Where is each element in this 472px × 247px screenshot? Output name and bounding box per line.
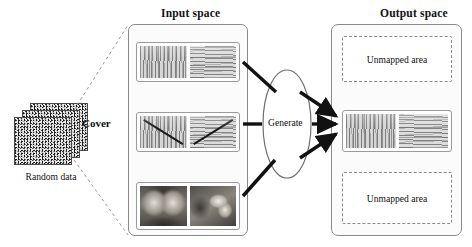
- unmapped-area-label: Unmapped area: [367, 54, 427, 65]
- noise-texture-icon: [14, 117, 72, 165]
- vertical-stripe-texture-icon: [140, 46, 187, 78]
- output-block-unmapped-bottom: Unmapped area: [342, 172, 452, 224]
- output-block-normal: [342, 110, 452, 152]
- random-data-label: Random data: [11, 172, 91, 182]
- cover-label: Cover: [82, 118, 111, 129]
- vertical-stripe-texture-icon: [346, 114, 396, 148]
- input-group-different-domain: [136, 182, 240, 230]
- horizontal-stripe-texture-icon: [190, 116, 237, 148]
- unmapped-area-label: Unmapped area: [367, 193, 427, 204]
- photo-face-texture-icon: [140, 186, 187, 226]
- generate-label: Generate: [268, 118, 303, 128]
- diagonal-line-up-icon: [190, 116, 237, 148]
- horizontal-stripe-texture-icon: [190, 46, 237, 78]
- photo-object-texture-icon: [190, 186, 237, 226]
- input-group-anomaly: [136, 112, 240, 152]
- input-group-normal: [136, 42, 240, 82]
- output-block-unmapped-top: Unmapped area: [342, 36, 452, 82]
- vertical-stripe-texture-icon: [140, 116, 187, 148]
- output-space-header: Output space: [380, 8, 448, 20]
- output-block-label-normal: Normal data: [331, 98, 472, 107]
- diagram-canvas: Random data Cover Input space Normal dat…: [0, 0, 472, 247]
- input-space-header: Input space: [161, 8, 220, 20]
- random-data-stack: [14, 103, 86, 165]
- diagonal-line-down-icon: [140, 116, 187, 148]
- horizontal-stripe-texture-icon: [399, 114, 449, 148]
- cover-connector-top: [74, 25, 128, 110]
